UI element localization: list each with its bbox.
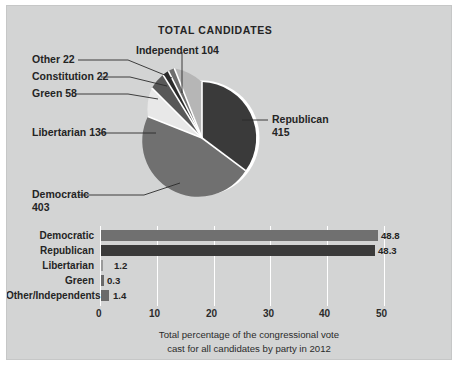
bar-row-label-other-independents: Other/Independents xyxy=(6,290,94,301)
bar-row-label-green: Green xyxy=(6,275,94,286)
bar-chart-caption-line2: cast for all candidates by party in 2012 xyxy=(119,342,379,356)
bar-other-independents xyxy=(101,290,109,301)
x-tick-label-30: 30 xyxy=(263,308,274,319)
x-tick-label-40: 40 xyxy=(319,308,330,319)
x-tick-label-0: 0 xyxy=(96,308,102,319)
bar-libertarian xyxy=(101,260,103,271)
bar-row-label-libertarian: Libertarian xyxy=(6,260,94,271)
bar-value-republican: 48.3 xyxy=(378,246,397,257)
bar-democratic xyxy=(101,230,378,241)
bar-chart-caption-line1: Total percentage of the congressional vo… xyxy=(119,328,379,342)
x-tick-label-10: 10 xyxy=(149,308,160,319)
bar-value-other-independents: 1.4 xyxy=(113,291,126,302)
bar-value-libertarian: 1.2 xyxy=(114,261,127,272)
bar-row-label-democratic: Democratic xyxy=(6,230,94,241)
x-tick-label-20: 20 xyxy=(206,308,217,319)
x-tick-label-50: 50 xyxy=(376,308,387,319)
bar-value-democratic: 48.8 xyxy=(381,231,400,242)
infographic-panel: TOTAL CANDIDATES xyxy=(6,5,452,360)
bar-green xyxy=(101,275,104,286)
bar-chart-section: Democratic Republican Libertarian Green … xyxy=(6,5,452,360)
bar-value-green: 0.3 xyxy=(107,276,120,287)
bar-republican xyxy=(101,245,375,256)
bar-row-label-republican: Republican xyxy=(6,245,94,256)
